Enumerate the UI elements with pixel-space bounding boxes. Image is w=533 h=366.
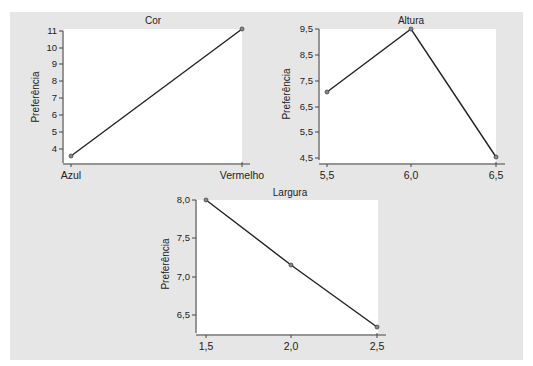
data-point <box>69 154 73 158</box>
x-tick-label: 5,5 <box>320 169 335 181</box>
y-ticks <box>315 29 319 158</box>
data-point <box>409 27 413 31</box>
chart-title: Altura <box>398 15 425 26</box>
chart-title: Cor <box>145 15 162 26</box>
y-tick-label: 7 <box>52 92 57 103</box>
y-tick-label: 5 <box>52 126 57 137</box>
chart-altura: Altura 9,5 8,5 7,5 6,5 5,5 4,5 Preferênc… <box>281 15 505 181</box>
data-point <box>289 263 293 267</box>
y-ticks <box>59 31 63 149</box>
x-tick-label: 2,0 <box>284 340 299 352</box>
chart-largura: Largura 8,0 7,5 7,0 6,5 Preferência 1,5 … <box>160 187 386 352</box>
figure: Cor 11 10 9 8 7 6 5 4 Preferência Azul V… <box>0 0 533 366</box>
y-tick-label: 4,5 <box>300 152 313 163</box>
y-tick-label: 7,0 <box>177 271 190 282</box>
y-tick-label: 6,5 <box>177 309 190 320</box>
y-tick-label: 7,5 <box>177 232 190 243</box>
y-axis-label: Preferência <box>160 238 171 290</box>
y-tick-label: 9,5 <box>300 23 313 34</box>
x-tick-label: Azul <box>61 169 81 181</box>
x-tick-label: 6,0 <box>404 169 419 181</box>
y-tick-label: 8 <box>52 75 57 86</box>
y-tick-label: 8,5 <box>300 49 313 60</box>
data-point <box>240 27 244 31</box>
x-tick-label: 2,5 <box>370 340 385 352</box>
y-tick-label: 7,5 <box>300 75 313 86</box>
y-axis-label: Preferência <box>30 71 41 123</box>
y-ticks <box>192 200 196 315</box>
y-tick-label: 6 <box>52 109 57 120</box>
y-tick-label: 8,0 <box>177 194 190 205</box>
y-axis-label: Preferência <box>281 68 292 120</box>
y-tick-label: 6,5 <box>300 101 313 112</box>
plot-area <box>320 29 496 163</box>
y-tick-label: 4 <box>52 143 57 154</box>
y-tick-label: 11 <box>47 25 57 36</box>
data-point <box>375 325 379 329</box>
data-point <box>325 90 329 94</box>
y-tick-label: 5,5 <box>300 126 313 137</box>
y-tick-label: 10 <box>46 42 57 53</box>
chart-title: Largura <box>273 187 308 198</box>
x-tick-label: 6,5 <box>489 169 504 181</box>
data-point <box>494 155 498 159</box>
chart-cor: Cor 11 10 9 8 7 6 5 4 Preferência Azul V… <box>30 15 264 181</box>
x-tick-label: Vermelho <box>220 169 265 181</box>
plot-area <box>197 200 378 334</box>
y-tick-label: 9 <box>52 58 57 69</box>
data-point <box>204 198 208 202</box>
x-tick-label: 1,5 <box>199 340 214 352</box>
